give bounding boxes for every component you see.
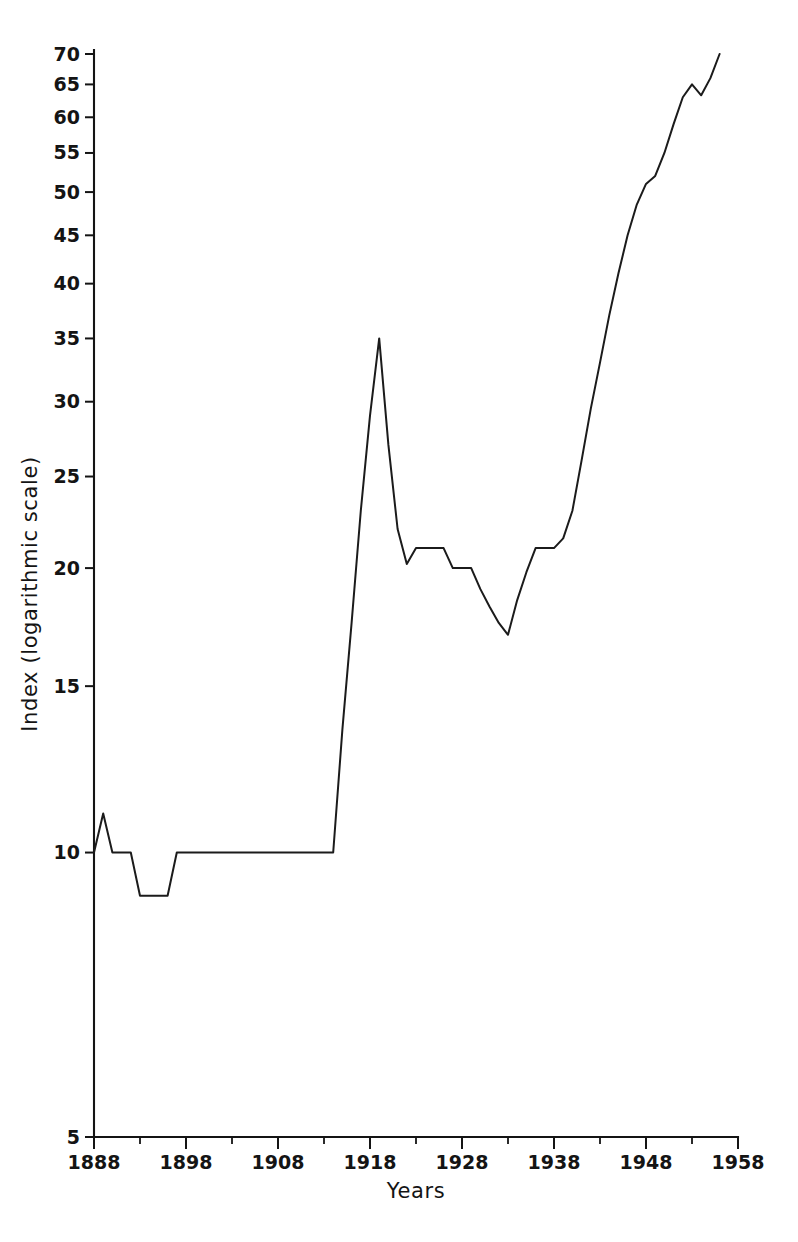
y-axis-tick-labels: 510152025303540455055606570 (54, 43, 80, 1148)
y-tick-label: 45 (54, 224, 80, 246)
x-tick-label: 1928 (436, 1151, 489, 1173)
y-axis-title: Index (logarithmic scale) (18, 456, 42, 731)
y-tick-label: 50 (54, 181, 80, 203)
line-chart-svg: 510152025303540455055606570 188818981908… (0, 0, 798, 1242)
x-tick-label: 1938 (528, 1151, 581, 1173)
x-axis-title: Years (386, 1179, 445, 1203)
data-series-index-line (94, 54, 720, 896)
x-tick-label: 1958 (712, 1151, 765, 1173)
x-tick-label: 1948 (620, 1151, 673, 1173)
y-tick-label: 60 (54, 106, 80, 128)
y-tick-label: 55 (54, 141, 80, 163)
y-tick-label: 65 (54, 73, 80, 95)
y-tick-label: 5 (67, 1126, 80, 1148)
x-tick-label: 1888 (68, 1151, 121, 1173)
x-tick-label: 1898 (160, 1151, 213, 1173)
y-tick-label: 70 (54, 43, 80, 65)
y-tick-label: 15 (54, 675, 80, 697)
y-tick-label: 10 (54, 841, 80, 863)
x-tick-label: 1918 (344, 1151, 397, 1173)
chart-figure: 510152025303540455055606570 188818981908… (0, 0, 798, 1242)
y-tick-label: 25 (54, 465, 80, 487)
y-tick-label: 40 (54, 272, 80, 294)
y-axis-ticks (85, 54, 94, 1137)
x-axis-tick-labels: 18881898190819181928193819481958 (68, 1151, 765, 1173)
y-tick-label: 30 (54, 390, 80, 412)
y-tick-label: 35 (54, 327, 80, 349)
x-tick-label: 1908 (252, 1151, 305, 1173)
y-tick-label: 20 (54, 557, 80, 579)
